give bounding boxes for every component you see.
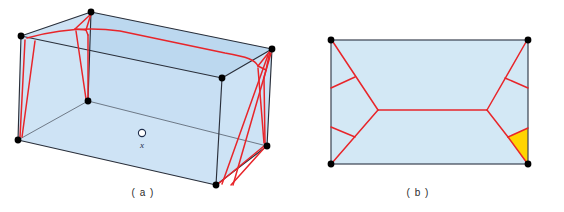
rect-vertex-top-left	[328, 37, 335, 44]
box-vertex-front-top-left	[18, 33, 25, 40]
box-vertex-back-bottom-left	[85, 98, 92, 105]
source-point-label: x	[139, 140, 144, 150]
caption-panel-b: ( b )	[407, 187, 430, 198]
box-vertex-back-top-left	[88, 9, 95, 16]
box-vertex-front-top-right	[219, 75, 226, 82]
source-point-marker-icon	[138, 129, 145, 136]
panel-a-3d-box: x ( a )	[15, 9, 276, 198]
panel-b-rectangle: ( b )	[328, 37, 532, 198]
box-vertex-front-bottom-right	[213, 182, 220, 189]
rect-vertex-bottom-left	[328, 161, 335, 168]
rect-vertex-bottom-right	[525, 161, 532, 168]
cut-locus-right-descend-1	[264, 78, 265, 143]
figure-svg: x ( a )	[0, 0, 564, 212]
box-faces	[18, 12, 272, 185]
box-vertex-back-bottom-right	[264, 143, 271, 150]
figure-root: x ( a )	[0, 0, 564, 212]
rect-vertex-top-right	[525, 37, 532, 44]
rect-face	[331, 40, 528, 164]
box-vertex-back-top-right	[269, 46, 276, 53]
cut-locus-left-cluster-c	[75, 29, 86, 30]
caption-panel-a: ( a )	[132, 187, 155, 198]
box-vertex-front-bottom-left	[15, 137, 22, 144]
